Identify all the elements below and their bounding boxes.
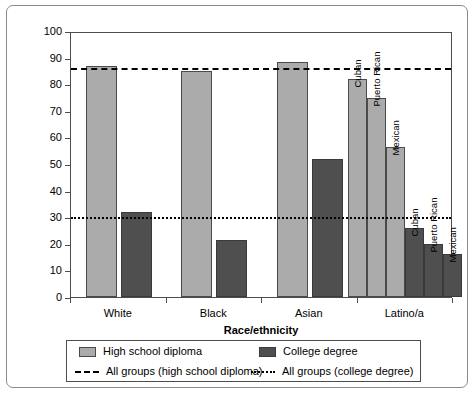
bar-label-mexican-college: Mexican [448,228,458,263]
legend-item-all-groups-high-school: All groups (high school diploma) [75,361,263,382]
x-axis-title: Race/ethnicity [70,324,452,336]
legend-row-2: All groups (high school diploma) All gro… [67,361,420,382]
bar-cuban-high-school [348,79,367,297]
y-tick-label: 70 [32,106,62,117]
bar-label-puerto-rican-high-school: Puerto Rican [372,51,382,106]
x-tick-label-black: Black [166,308,262,319]
chart-page: Percentage who complete education 010203… [0,0,476,395]
x-tick-label-white: White [70,308,166,319]
x-tick-mark [452,298,453,303]
reference-line-high-school [71,68,451,70]
legend-item-college-degree: College degree [259,341,358,362]
legend-line-dashed-icon [75,371,99,373]
reference-line-college [71,217,451,219]
chart-legend: High school diploma College degree All g… [66,340,421,382]
legend-label-all-groups-college: All groups (college degree) [282,366,413,377]
y-tick-label: 20 [32,239,62,250]
legend-swatch-high-school-diploma [79,347,96,357]
bar-asian-college [312,159,343,297]
legend-item-all-groups-college: All groups (college degree) [251,361,413,382]
x-tick-label-latino-a: Latino/a [357,308,453,319]
y-tick-label: 40 [32,186,62,197]
legend-item-high-school-diploma: High school diploma [79,341,202,362]
bar-black-college [216,240,247,297]
bar-label-cuban-college: Cuban [410,208,420,236]
chart-frame: Percentage who complete education 010203… [6,5,468,388]
legend-swatch-college-degree [259,347,276,357]
bar-cuban-college [405,228,424,297]
bar-white-high-school [86,66,117,297]
y-tick-label: 10 [32,265,62,276]
legend-label-college-degree: College degree [283,346,358,357]
y-tick-label: 90 [32,53,62,64]
y-tick-label: 80 [32,79,62,90]
bar-black-high-school [181,71,212,297]
plot-area: CubanPuerto RicanMexicanCubanPuerto Rica… [70,32,452,298]
legend-row-1: High school diploma College degree [67,341,420,362]
bar-white-college [121,212,152,297]
bar-asian-high-school [277,62,308,297]
x-tick-mark [357,298,358,303]
bar-mexican-high-school [386,147,405,297]
bar-label-cuban-high-school: Cuban [353,59,363,87]
y-tick-label: 100 [32,26,62,37]
y-tick-label: 60 [32,132,62,143]
bar-puerto-rican-high-school [367,98,386,298]
y-tick-label: 0 [32,292,62,303]
x-tick-label-asian: Asian [261,308,357,319]
y-tick-label: 30 [32,212,62,223]
x-tick-mark [261,298,262,303]
x-tick-mark [166,298,167,303]
y-tick-label: 50 [32,159,62,170]
bar-label-puerto-rican-college: Puerto Rican [429,197,439,252]
legend-label-all-groups-high-school: All groups (high school diploma) [106,366,263,377]
legend-line-dotted-icon [251,371,275,373]
legend-label-high-school-diploma: High school diploma [103,346,202,357]
x-tick-mark [70,298,71,303]
bar-label-mexican-high-school: Mexican [391,120,401,155]
